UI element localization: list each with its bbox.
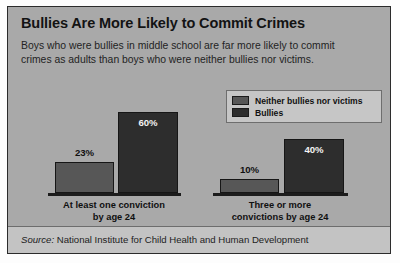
- source-note: Source: National Institute for Child Hea…: [21, 234, 308, 245]
- group-label-at-least-one-line-2: by age 24: [34, 212, 194, 224]
- bar-value-neither-three-or-more: 10%: [220, 164, 279, 175]
- source-strip: Source: National Institute for Child Hea…: [8, 226, 390, 253]
- group-label-three-or-more: Three or more convictions by age 24: [200, 200, 360, 223]
- bar-neither-three-or-more: [220, 179, 279, 193]
- bar-value-bullies-at-least-one: 60%: [118, 117, 178, 128]
- chart-plot-area: 23% 60% At least one conviction by age 2…: [8, 7, 390, 253]
- group-label-at-least-one: At least one conviction by age 24: [34, 200, 194, 223]
- bar-value-bullies-three-or-more: 40%: [284, 144, 344, 155]
- bar-value-neither-at-least-one: 23%: [55, 147, 114, 158]
- group-baseline-2: [213, 193, 348, 196]
- bar-neither-at-least-one: [55, 162, 114, 193]
- group-label-three-or-more-line-1: Three or more: [200, 200, 360, 212]
- chart-figure: Bullies Are More Likely to Commit Crimes…: [7, 6, 391, 254]
- source-label: Source:: [21, 234, 54, 245]
- group-baseline-1: [48, 193, 181, 196]
- group-label-three-or-more-line-2: convictions by age 24: [200, 212, 360, 224]
- source-value: National Institute for Child Health and …: [57, 234, 309, 245]
- group-label-at-least-one-line-1: At least one conviction: [34, 200, 194, 212]
